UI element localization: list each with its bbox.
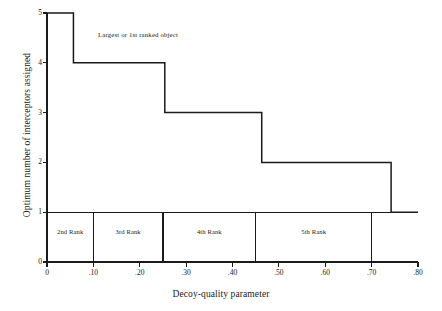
y-tick-label: 0 — [32, 258, 42, 266]
y-tick-label: 2 — [32, 159, 42, 167]
y-tick-label: 5 — [32, 9, 42, 17]
rank-band-label: 5th Rank — [301, 228, 326, 235]
x-tick-label: .60 — [321, 269, 330, 277]
chart-axes — [47, 13, 418, 262]
x-axis-title: Decoy-quality parameter — [0, 289, 442, 299]
chart-plot-area — [0, 0, 442, 311]
x-tick-label: .80 — [413, 269, 422, 277]
chart-tick-marks — [43, 13, 419, 267]
chart-figure: Optimum number of interceptors assigned … — [0, 0, 442, 311]
rank-band-label: 4th Rank — [197, 228, 222, 235]
step-curve-path — [47, 13, 418, 212]
x-tick-label: .70 — [367, 269, 376, 277]
step-curve-series — [47, 13, 418, 212]
x-tick-label: .30 — [181, 269, 190, 277]
y-tick-label: 3 — [32, 109, 42, 117]
x-tick-label: .10 — [89, 269, 98, 277]
y-axis-title: Optimum number of interceptors assigned — [22, 35, 32, 235]
x-tick-label: .20 — [135, 269, 144, 277]
rank-band-boxes — [47, 212, 418, 262]
rank-band-label: 3rd Rank — [116, 228, 141, 235]
x-tick-label: .40 — [228, 269, 237, 277]
y-tick-label: 1 — [32, 208, 42, 216]
y-tick-label: 4 — [32, 59, 42, 67]
x-tick-label: .50 — [274, 269, 283, 277]
rank-band-label: 2nd Rank — [57, 228, 83, 235]
x-tick-label: 0 — [45, 269, 49, 277]
series-annotation-label: Largest or 1st ranked object — [98, 31, 178, 38]
